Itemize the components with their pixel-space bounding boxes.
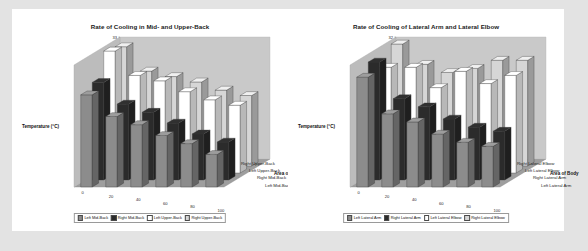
z-category-label: Right Lateral Elbow [517,161,554,166]
x-tick-label: 60 [163,201,168,206]
legend-item: Left Lateral Elbow [424,215,462,220]
chart-legend: Left Mid-BackRight Mid-BackLeft Upper-Ba… [74,213,226,223]
plot-area: 3231.53130.53029.529020406080100Left Lat… [288,9,564,231]
legend-label: Left Lateral Arm [354,215,381,220]
z-axis-title: Area of Body [550,171,579,176]
legend-swatch [147,215,152,220]
legend-item: Right Upper-Back [185,215,222,220]
legend-swatch [185,215,190,220]
legend-swatch [384,215,389,220]
legend-item: Right Mid-Back [111,215,144,220]
x-tick-label: 40 [136,197,141,202]
x-tick-label: 0 [358,190,360,195]
legend-label: Left Upper-Back [154,215,182,220]
x-tick-label: 80 [190,204,195,209]
chart-lateral-arm-elbow: Rate of Cooling of Lateral Arm and Later… [288,9,564,231]
legend-label: Right Upper-Back [191,215,222,220]
legend-label: Right Lateral Elbow [471,215,505,220]
z-category-label: Right Mid-Back [257,175,286,180]
legend-item: Right Lateral Arm [384,215,421,220]
chart-legend: Left Lateral ArmRight Lateral ArmLeft La… [343,213,509,223]
page-root: Rate of Cooling in Mid- and Upper-Back 3… [0,0,588,251]
x-tick-label: 0 [82,190,84,195]
legend-label: Left Lateral Elbow [430,215,461,220]
z-category-label: Right Upper-Back [241,161,275,166]
y-axis-title: Temperature (°C) [298,124,335,129]
legend-swatch [465,215,470,220]
plot-area: 3332.53231.53130.53029.52928.50204060801… [12,9,288,231]
legend-label: Right Lateral Arm [391,215,421,220]
z-category-label: Right Lateral Arm [533,175,566,180]
legend-item: Right Lateral Elbow [465,215,505,220]
legend-swatch [347,215,352,220]
x-tick-label: 80 [466,204,471,209]
legend-label: Left Mid-Back [84,215,108,220]
x-tick-label: 20 [109,194,114,199]
legend-swatch [78,215,83,220]
legend-item: Left Lateral Arm [347,215,381,220]
chart-mid-upper-back: Rate of Cooling in Mid- and Upper-Back 3… [12,9,288,231]
y-axis-title: Temperature (°C) [22,124,59,129]
z-category-label: Left Lateral Arm [541,183,571,188]
x-tick-label: 20 [385,194,390,199]
x-tick-label: 40 [412,197,417,202]
document-paper: Rate of Cooling in Mid- and Upper-Back 3… [12,9,564,231]
legend-label: Right Mid-Back [118,215,144,220]
x-tick-label: 60 [439,201,444,206]
legend-item: Left Upper-Back [147,215,182,220]
legend-swatch [111,215,116,220]
legend-swatch [424,215,429,220]
legend-item: Left Mid-Back [78,215,108,220]
